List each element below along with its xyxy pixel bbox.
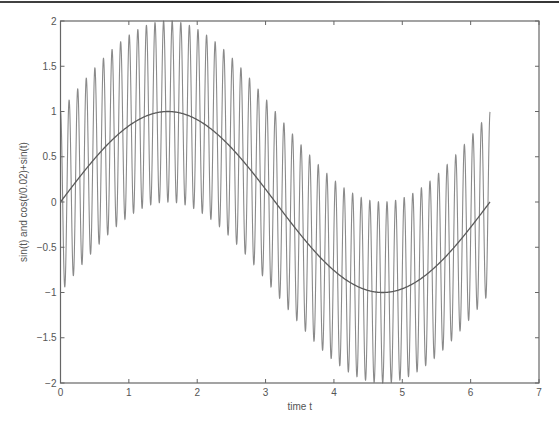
x-tick-label: 6	[468, 387, 474, 398]
x-tick-label: 2	[194, 387, 200, 398]
y-tick-label: 1.5	[43, 61, 57, 72]
x-tick-label: 7	[536, 387, 542, 398]
y-tick-label: 1	[51, 106, 57, 117]
y-tick-label: −0.5	[37, 242, 57, 253]
x-tick-label: 3	[263, 387, 269, 398]
series-sine	[61, 112, 491, 293]
x-tick-label: 4	[331, 387, 337, 398]
y-tick-label: 0.5	[43, 151, 57, 162]
plot-curves	[61, 21, 491, 383]
x-tick-label: 5	[400, 387, 406, 398]
x-tick-label: 1	[126, 387, 132, 398]
y-tick-label: −2	[45, 378, 57, 389]
y-tick-label: −1	[45, 287, 57, 298]
chart: 01234567 −2−1.5−1−0.500.511.52 time t si…	[0, 0, 559, 429]
y-tick-label: 0	[51, 197, 57, 208]
y-tick-label: 2	[51, 16, 57, 27]
y-axis: −2−1.5−1−0.500.511.52	[37, 16, 539, 389]
y-axis-label: sin(t) and cos(t/0.02)+sin(t)	[18, 142, 29, 262]
y-tick-label: −1.5	[37, 332, 57, 343]
x-axis-label: time t	[288, 401, 313, 412]
x-tick-label: 0	[58, 387, 64, 398]
